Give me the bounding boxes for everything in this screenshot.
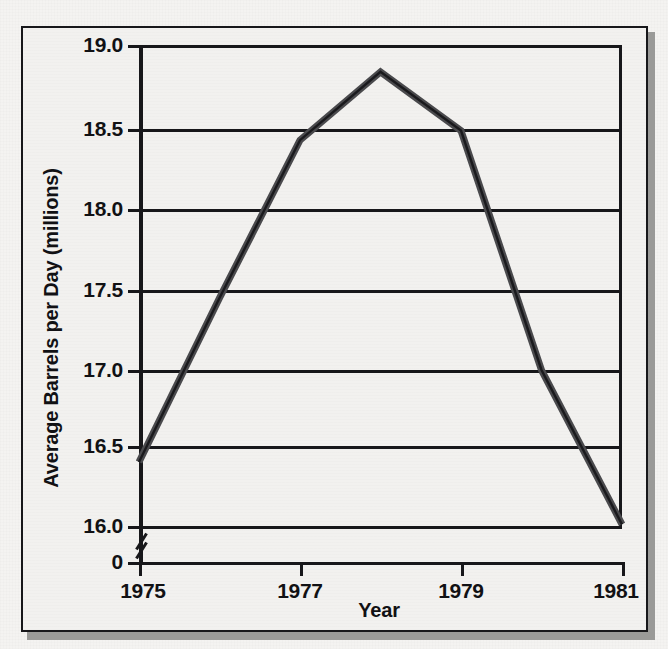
x-axis-title: Year — [358, 599, 399, 622]
y-tick-label-17-0: 17.0 — [83, 358, 123, 382]
y-tick-16-0 — [128, 526, 139, 529]
y-tick-18-5 — [128, 129, 139, 132]
y-tick-17-0 — [128, 370, 139, 373]
x-tick-1975 — [139, 562, 142, 576]
y-tick-18-0 — [128, 209, 139, 212]
x-axis-line — [139, 562, 622, 565]
y-axis-title: Average Barrels per Day (millions) — [40, 168, 63, 487]
plot-area: 19.0 18.5 18.0 17.5 17.0 16.5 16.0 0 197… — [139, 45, 622, 562]
data-series-line — [139, 45, 622, 562]
y-tick-19-0 — [128, 45, 139, 48]
x-tick-label-1981: 1981 — [593, 579, 639, 603]
y-tick-label-17-5: 17.5 — [83, 278, 123, 302]
x-tick-label-1975: 1975 — [120, 579, 166, 603]
y-tick-label-18-5: 18.5 — [83, 117, 123, 141]
y-tick-label-16-0: 16.0 — [83, 514, 123, 538]
x-tick-1979 — [461, 562, 464, 576]
x-tick-label-1979: 1979 — [438, 579, 484, 603]
y-tick-label-19-0: 19.0 — [83, 33, 123, 57]
y-tick-0 — [128, 562, 139, 565]
y-tick-17-5 — [128, 290, 139, 293]
y-tick-16-5 — [128, 446, 139, 449]
x-tick-1977 — [300, 562, 303, 576]
y-tick-label-16-5: 16.5 — [83, 434, 123, 458]
y-tick-label-18-0: 18.0 — [83, 197, 123, 221]
figure-frame: 19.0 18.5 18.0 17.5 17.0 16.5 16.0 0 197… — [21, 26, 648, 632]
x-tick-1981 — [622, 562, 625, 576]
x-tick-label-1977: 1977 — [277, 579, 323, 603]
y-tick-label-0: 0 — [112, 550, 123, 574]
